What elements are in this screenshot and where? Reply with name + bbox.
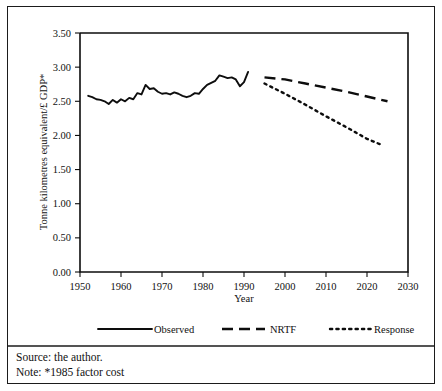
- y-axis-tick-labels: 0.000.501.001.502.002.503.003.50: [53, 28, 71, 278]
- chart-legend: Observed NRTF Response: [98, 324, 415, 335]
- y-tick-label: 0.50: [53, 232, 71, 243]
- legend-label-nrtf: NRTF: [270, 324, 296, 335]
- series-line-nrtf: [265, 77, 388, 101]
- series-group: [88, 72, 387, 146]
- chart-canvas: 0.000.501.001.502.002.503.003.50 1950196…: [0, 0, 442, 391]
- x-tick-label: 1970: [152, 281, 173, 292]
- footnote: Note: *1985 factor cost: [16, 366, 125, 378]
- legend-label-response: Response: [374, 324, 415, 335]
- y-tick-label: 3.50: [53, 28, 71, 39]
- plot-axes: [80, 33, 408, 272]
- y-tick-label: 3.00: [53, 62, 71, 73]
- x-tick-label: 1990: [234, 281, 255, 292]
- y-axis-title: Tonne kilometres equivalent/£ GDP*: [38, 74, 49, 230]
- x-tick-label: 2000: [275, 281, 296, 292]
- legend-label-observed: Observed: [154, 324, 195, 335]
- plot-area-border: [80, 33, 408, 272]
- x-tick-label: 2020: [357, 281, 378, 292]
- x-tick-label: 1960: [111, 281, 132, 292]
- x-tick-label: 2030: [398, 281, 419, 292]
- figure-container: 0.000.501.001.502.002.503.003.50 1950196…: [0, 0, 442, 391]
- x-tick-label: 1980: [193, 281, 214, 292]
- y-tick-label: 2.50: [53, 96, 71, 107]
- x-axis-title: Year: [234, 293, 254, 304]
- x-tick-label: 2010: [316, 281, 337, 292]
- y-tick-label: 0.00: [53, 267, 71, 278]
- series-line-response: [265, 84, 384, 146]
- series-line-observed: [88, 72, 248, 104]
- x-axis-tick-labels: 195019601970198019902000201020202030: [70, 281, 419, 292]
- source-note: Source: the author.: [16, 351, 103, 363]
- y-tick-label: 1.50: [53, 164, 71, 175]
- x-tick-label: 1950: [70, 281, 91, 292]
- y-tick-label: 1.00: [53, 198, 71, 209]
- y-tick-label: 2.00: [53, 130, 71, 141]
